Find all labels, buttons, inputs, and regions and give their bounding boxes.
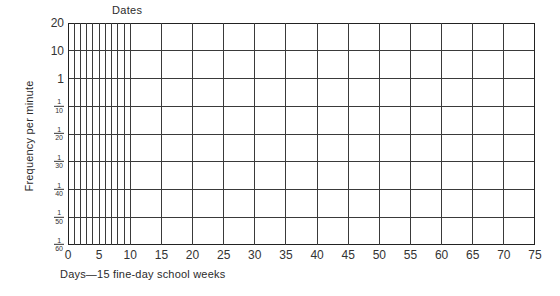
fraction-denominator: 40: [54, 190, 64, 197]
y-tick-fraction: 140: [54, 181, 64, 197]
x-tick-label: 75: [528, 248, 541, 262]
chart-title: Dates: [112, 4, 142, 16]
y-tick-fraction: 110: [54, 98, 64, 114]
x-tick-label: 45: [342, 248, 355, 262]
x-axis-label: Days—15 fine-day school weeks: [60, 268, 225, 280]
fraction-numerator: 1: [54, 209, 64, 217]
y-tick-fraction: 150: [54, 209, 64, 225]
y-tick-label-layer: 20101110120130140150160: [30, 0, 64, 296]
standard-celeration-chart-page: Dates Frequency per minute Days—15 fine-…: [0, 0, 560, 296]
y-tick-label: 130: [54, 154, 64, 170]
y-tick-fraction: 120: [54, 126, 64, 142]
fraction-denominator: 30: [54, 162, 64, 169]
y-tick-label: 150: [54, 209, 64, 225]
y-tick-label: 10: [51, 45, 64, 57]
y-tick-label: 110: [54, 98, 64, 114]
x-tick-label: 5: [96, 248, 103, 262]
x-tick-label: 35: [279, 248, 292, 262]
x-tick-label: 55: [404, 248, 417, 262]
y-tick-label: 1: [57, 73, 64, 85]
fraction-denominator: 50: [54, 217, 64, 224]
fraction-numerator: 1: [54, 126, 64, 134]
x-tick-label: 60: [435, 248, 448, 262]
fraction-numerator: 1: [54, 98, 64, 106]
x-tick-label: 70: [497, 248, 510, 262]
x-tick-label: 25: [217, 248, 230, 262]
y-tick-label: 120: [54, 126, 64, 142]
fraction-numerator: 1: [54, 181, 64, 189]
x-tick-label: 40: [310, 248, 323, 262]
y-tick-label: 160: [54, 237, 64, 253]
y-tick-label: 140: [54, 181, 64, 197]
fraction-numerator: 1: [54, 154, 64, 162]
x-tick-label: 20: [186, 248, 199, 262]
x-tick-label: 65: [466, 248, 479, 262]
y-tick-label: 20: [51, 17, 64, 29]
plot-area: [68, 23, 535, 245]
fraction-denominator: 10: [54, 106, 64, 113]
fraction-numerator: 1: [54, 237, 64, 245]
x-tick-label: 15: [155, 248, 168, 262]
x-tick-label: 10: [124, 248, 137, 262]
x-tick-label: 0: [65, 248, 72, 262]
fraction-denominator: 20: [54, 134, 64, 141]
grid-svg: [68, 23, 535, 245]
x-tick-label: 30: [248, 248, 261, 262]
y-tick-fraction: 130: [54, 154, 64, 170]
y-tick-fraction: 160: [54, 237, 64, 253]
fraction-denominator: 60: [54, 245, 64, 252]
x-tick-label: 50: [373, 248, 386, 262]
